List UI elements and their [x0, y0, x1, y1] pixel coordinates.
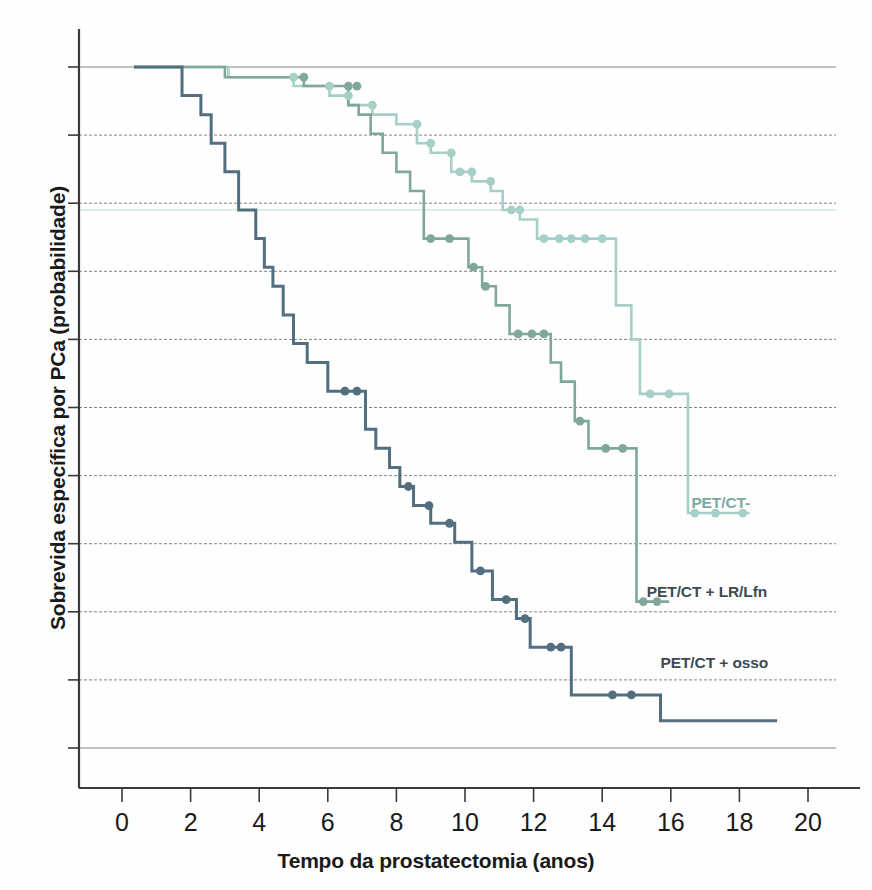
censor-dot [576, 417, 585, 426]
censor-dot [447, 148, 456, 157]
censor-markers [289, 73, 747, 699]
censor-dot [325, 82, 334, 91]
censor-dot [476, 567, 485, 576]
censor-dot [469, 263, 478, 272]
series-label-2: PET/CT + osso [661, 654, 769, 672]
censor-dot [527, 330, 536, 339]
censor-dot [486, 177, 495, 186]
censor-dot [413, 120, 422, 129]
x-tick-label-18: 18 [725, 808, 753, 837]
censor-dot [646, 389, 655, 398]
censor-dot [555, 234, 564, 243]
censor-dot [299, 73, 308, 82]
censor-dot [344, 91, 353, 100]
censor-dot [467, 167, 476, 176]
y-axis-title: Sobrevida específica por PCa (probabilid… [46, 58, 70, 758]
chart-figure: 02468101214161820 PET/CT-PET/CT + LR/Lfn… [0, 0, 872, 890]
curve-pet-ct- [134, 67, 750, 513]
censor-dot [404, 482, 413, 491]
x-tick-label-12: 12 [520, 808, 548, 837]
censor-dot [353, 387, 362, 396]
axis-lines [79, 29, 860, 788]
x-axis-title: Tempo da prostatectomia (anos) [0, 849, 872, 873]
censor-dot [502, 595, 511, 604]
curve-pet-ct-lr-lfn [134, 67, 669, 602]
censor-dot [557, 643, 566, 652]
x-tick-label-10: 10 [451, 808, 479, 837]
x-tick-label-6: 6 [321, 808, 335, 837]
censor-dot [608, 690, 617, 699]
x-axis-ticks [122, 788, 808, 802]
censor-dot [425, 501, 434, 510]
censor-dot [289, 73, 298, 82]
x-tick-label-14: 14 [588, 808, 616, 837]
censor-dot [546, 643, 555, 652]
censor-dot [515, 206, 524, 215]
x-tick-label-8: 8 [389, 808, 403, 837]
censor-dot [481, 282, 490, 291]
censor-dot [567, 234, 576, 243]
x-tick-label-2: 2 [184, 808, 198, 837]
x-tick-label-0: 0 [115, 808, 129, 837]
censor-dot [507, 206, 516, 215]
censor-dot [598, 234, 607, 243]
x-tick-label-4: 4 [252, 808, 266, 837]
censor-dot [601, 444, 610, 453]
series-label-0: PET/CT- [691, 494, 750, 512]
censor-dot [581, 234, 590, 243]
censor-dot [353, 82, 362, 91]
x-tick-label-20: 20 [794, 808, 822, 837]
survival-curve-plot [0, 0, 872, 890]
censor-dot [514, 330, 523, 339]
censor-dot [445, 234, 454, 243]
censor-dot [344, 82, 353, 91]
censor-dot [455, 167, 464, 176]
series-label-1: PET/CT + LR/Lfn [647, 583, 767, 601]
censor-dot [426, 234, 435, 243]
censor-dot [341, 387, 350, 396]
x-tick-label-16: 16 [657, 808, 685, 837]
censor-dot [368, 101, 377, 110]
censor-dot [539, 234, 548, 243]
censor-dot [618, 444, 627, 453]
censor-dot [627, 690, 636, 699]
censor-dot [539, 330, 548, 339]
censor-dot [521, 614, 530, 623]
censor-dot [426, 139, 435, 148]
censor-dot [445, 519, 454, 528]
censor-dot [665, 389, 674, 398]
series-curves [134, 67, 777, 721]
